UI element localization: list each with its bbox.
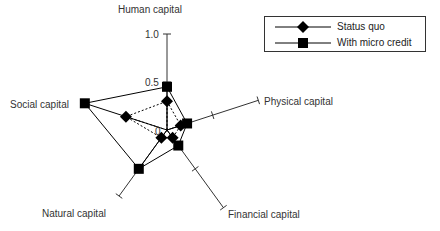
legend: Status quo With micro credit [264, 16, 426, 52]
radar-series [80, 82, 192, 174]
tick-label-0: 0 [155, 126, 161, 137]
square-marker-icon [275, 35, 335, 51]
diamond-marker-icon [275, 19, 335, 35]
tick-label-1: 1.0 [145, 29, 159, 40]
legend-item-micro-credit: With micro credit [265, 35, 425, 51]
axis-label-social: Social capital [10, 99, 69, 110]
legend-label: With micro credit [337, 37, 411, 48]
axis-label-human: Human capital [118, 4, 182, 15]
axis-label-financial: Financial capital [228, 209, 300, 220]
axis-label-natural: Natural capital [42, 208, 106, 219]
legend-label: Status quo [337, 21, 385, 32]
axis-label-physical: Physical capital [264, 96, 333, 107]
legend-item-status-quo: Status quo [265, 19, 425, 35]
tick-label-05: 0.5 [145, 77, 159, 88]
